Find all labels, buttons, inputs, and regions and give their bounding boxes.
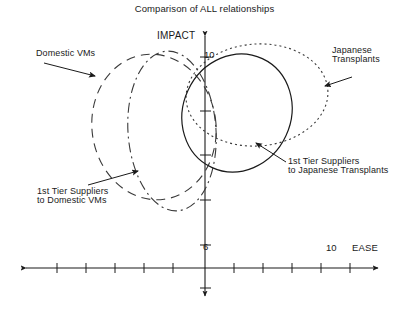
y-axis-tick-label-10: 10 [204,50,215,60]
page-title: Comparison of ALL relationships [0,4,409,14]
callout-arrow-domestic-vms [44,63,95,76]
callout-label-tier1-domestic-vms: 1st Tier Suppliers to Domestic VMs [37,187,108,206]
callout-line: Transplants [332,55,380,64]
diagram-canvas: Comparison of ALL relationships IMPACT E… [0,0,409,313]
ellipse-domestic-vms [82,46,225,208]
callout-arrow-tier1-domestic [88,171,138,185]
callout-label-japanese-transplants: Japanese Transplants [332,46,380,65]
callout-line: to Japanese Transplants [288,166,388,175]
ellipse-group [82,36,331,214]
callout-line: Domestic VMs [36,49,95,58]
x-axis-label: EASE [352,243,378,253]
ellipse-tier1-domestic-vms [123,48,222,214]
callout-label-tier1-japanese-transplants: 1st Tier Suppliers to Japanese Transplan… [288,157,388,176]
x-axis-tick-label-10: 10 [326,243,337,253]
y-axis-tick-label-6: 6 [203,242,208,252]
callout-arrow-japanese-transplants [325,77,352,86]
callout-label-domestic-vms: Domestic VMs [36,49,95,58]
y-axis-label: IMPACT [157,31,195,42]
callout-line: to Domestic VMs [37,196,108,205]
callout-arrow-tier1-japanese [256,143,286,162]
